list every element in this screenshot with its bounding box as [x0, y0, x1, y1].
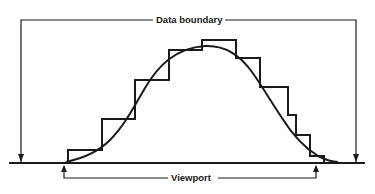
- viewport-left-line: [64, 166, 168, 178]
- viewport-left-arrow-icon: [61, 165, 67, 172]
- diagram-canvas: [0, 0, 375, 194]
- viewport-right-arrow-icon: [313, 165, 319, 172]
- data-boundary-left-line: [21, 20, 153, 162]
- data-boundary-bracket: [18, 20, 359, 162]
- data-boundary-right-arrow-icon: [353, 154, 359, 162]
- data-boundary-left-arrow-icon: [18, 154, 24, 162]
- bell-curve: [66, 46, 338, 162]
- viewport-right-line: [218, 166, 316, 178]
- viewport-label: Viewport: [169, 172, 213, 183]
- data-boundary-label: Data boundary: [154, 14, 225, 25]
